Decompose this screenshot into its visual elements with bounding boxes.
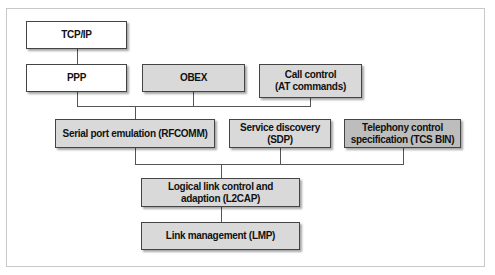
node-label-line2: adaption (L2CAP) bbox=[181, 193, 260, 205]
connector-ppp-down bbox=[77, 92, 78, 106]
node-label-line2: specification (TCS BIN) bbox=[351, 134, 455, 146]
node-label: TCP/IP bbox=[61, 29, 91, 41]
node-label-line1: Logical link control and bbox=[168, 181, 273, 193]
node-ppp: PPP bbox=[26, 64, 127, 92]
connector-sdp-down bbox=[280, 148, 281, 165]
node-label-line1: Call control bbox=[285, 69, 336, 81]
connector-mid-bus bbox=[135, 164, 404, 165]
node-sdp: Service discovery (SDP) bbox=[229, 119, 331, 148]
node-tcpip: TCP/IP bbox=[26, 21, 127, 49]
connector-top-bus bbox=[77, 106, 311, 107]
node-rfcomm: Serial port emulation (RFCOMM) bbox=[55, 119, 215, 148]
node-label: Link management (LMP) bbox=[166, 230, 275, 242]
node-label-line1: Telephony control bbox=[362, 122, 443, 134]
node-label: Serial port emulation (RFCOMM) bbox=[63, 128, 208, 140]
connector-tcs-down bbox=[403, 148, 404, 165]
connector-callcontrol-down bbox=[310, 98, 311, 106]
connector-bus-l2cap bbox=[221, 164, 222, 178]
node-label: OBEX bbox=[180, 72, 207, 84]
connector-tcpip-ppp bbox=[77, 49, 78, 64]
connector-rfcomm-down bbox=[135, 148, 136, 165]
connector-bus-rfcomm bbox=[135, 106, 136, 119]
node-label: PPP bbox=[67, 72, 86, 84]
node-tcs: Telephony control specification (TCS BIN… bbox=[344, 119, 461, 148]
node-label: Service discovery (SDP) bbox=[230, 122, 330, 146]
node-lmp: Link management (LMP) bbox=[141, 222, 300, 250]
connector-obex-down bbox=[193, 92, 194, 106]
node-call-control: Call control (AT commands) bbox=[259, 64, 362, 98]
node-label-line2: (AT commands) bbox=[275, 81, 346, 93]
node-l2cap: Logical link control and adaption (L2CAP… bbox=[141, 178, 300, 207]
connector-l2cap-lmp bbox=[221, 207, 222, 222]
node-obex: OBEX bbox=[142, 64, 245, 92]
